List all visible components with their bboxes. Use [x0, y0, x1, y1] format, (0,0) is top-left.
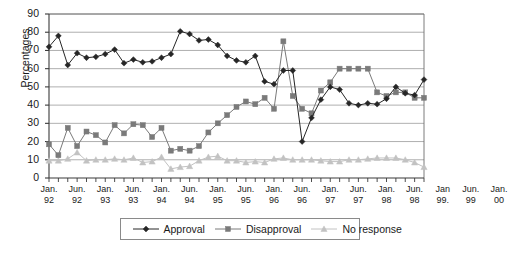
data-point-marker: [196, 38, 202, 44]
legend-symbol-square-icon: [213, 223, 243, 235]
data-point-marker: [47, 142, 52, 147]
y-axis-tick-label: 50: [13, 80, 39, 92]
series-approval: [46, 28, 427, 144]
data-point-marker: [280, 155, 286, 161]
data-point-marker: [337, 66, 342, 71]
y-axis-tick-label: 30: [13, 116, 39, 128]
legend-symbol-diamond-icon: [131, 223, 161, 235]
data-point-marker: [143, 226, 149, 232]
legend-item-no-response[interactable]: No response: [301, 223, 402, 235]
data-point-marker: [75, 144, 80, 149]
data-point-marker: [252, 53, 258, 59]
data-point-marker: [112, 47, 118, 53]
data-point-marker: [187, 148, 192, 153]
data-point-marker: [74, 149, 80, 155]
data-point-marker: [234, 104, 239, 109]
data-point-marker: [272, 106, 277, 111]
data-point-marker: [215, 153, 221, 159]
data-point-marker: [243, 59, 249, 65]
data-point-marker: [65, 125, 70, 130]
data-point-marker: [281, 39, 286, 44]
data-point-marker: [122, 131, 127, 136]
data-point-marker: [375, 90, 380, 95]
data-point-marker: [421, 77, 427, 83]
series-line: [49, 31, 424, 141]
data-point-marker: [337, 87, 343, 93]
legend-label: No response: [339, 223, 402, 235]
data-point-marker: [93, 54, 99, 60]
data-point-marker: [168, 148, 173, 153]
data-point-marker: [84, 129, 89, 134]
data-point-marker: [234, 58, 240, 64]
data-point-marker: [206, 130, 211, 135]
y-axis-tick-label: 60: [13, 62, 39, 74]
legend-item-approval[interactable]: Approval: [121, 223, 205, 235]
data-point-marker: [347, 66, 352, 71]
data-point-marker: [422, 95, 427, 100]
data-point-marker: [271, 81, 277, 87]
data-point-marker: [140, 123, 145, 128]
data-point-marker: [262, 79, 268, 85]
data-point-marker: [262, 95, 267, 100]
data-point-marker: [158, 154, 164, 160]
data-point-marker: [65, 156, 71, 162]
legend-symbol-triangle-icon: [309, 223, 339, 235]
series-no-response: [46, 149, 427, 171]
y-axis-tick-label: 80: [13, 25, 39, 37]
legend-item-disapproval[interactable]: Disapproval: [205, 223, 301, 235]
data-point-marker: [205, 37, 211, 43]
data-point-marker: [187, 163, 193, 169]
data-point-marker: [197, 144, 202, 149]
data-point-marker: [112, 156, 118, 162]
data-point-marker: [149, 159, 155, 165]
series-disapproval: [47, 39, 427, 158]
data-point-marker: [56, 153, 61, 158]
data-point-marker: [421, 164, 427, 170]
data-point-marker: [178, 146, 183, 151]
y-axis-tick-label: 40: [13, 98, 39, 110]
data-point-marker: [374, 101, 380, 107]
data-point-marker: [225, 113, 230, 118]
chart-legend: ApprovalDisapprovalNo response: [120, 218, 360, 240]
data-point-marker: [130, 57, 136, 63]
data-point-marker: [253, 102, 258, 107]
data-point-marker: [225, 227, 230, 232]
data-point-marker: [393, 90, 398, 95]
data-point-marker: [159, 55, 165, 61]
data-point-marker: [121, 60, 127, 66]
legend-label: Approval: [161, 223, 205, 235]
data-point-marker: [103, 140, 108, 145]
data-point-marker: [252, 159, 258, 165]
x-axis-tick-label: Jan.00: [482, 184, 512, 205]
data-point-marker: [84, 55, 90, 61]
data-point-marker: [365, 66, 370, 71]
data-point-marker: [168, 51, 174, 57]
data-point-marker: [131, 122, 136, 127]
data-point-marker: [243, 99, 248, 104]
data-point-marker: [356, 66, 361, 71]
y-axis-tick-label: 0: [13, 171, 39, 183]
data-point-marker: [177, 28, 183, 34]
data-point-marker: [149, 58, 155, 64]
data-point-marker: [112, 123, 117, 128]
data-point-marker: [215, 121, 220, 126]
y-axis-tick-label: 90: [13, 7, 39, 19]
data-point-marker: [93, 133, 98, 138]
data-point-marker: [290, 94, 295, 99]
y-axis-tick-label: 70: [13, 43, 39, 55]
data-point-marker: [196, 158, 202, 164]
y-axis-tick-label: 20: [13, 135, 39, 147]
data-point-marker: [140, 59, 146, 65]
data-point-marker: [150, 135, 155, 140]
data-point-marker: [300, 106, 305, 111]
data-point-marker: [299, 139, 305, 145]
data-point-marker: [159, 125, 164, 130]
y-axis-tick-label: 10: [13, 153, 39, 165]
data-point-marker: [130, 155, 136, 161]
legend-label: Disapproval: [243, 223, 301, 235]
data-point-marker: [318, 88, 323, 93]
data-point-marker: [102, 51, 108, 57]
data-point-marker: [355, 102, 361, 108]
